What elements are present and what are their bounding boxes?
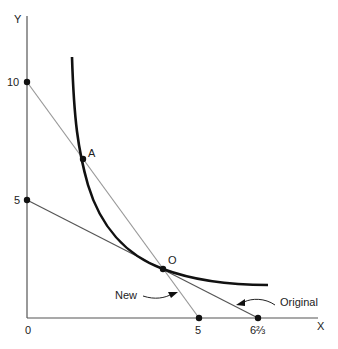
y-tick-10: 10	[7, 76, 19, 88]
new-arrowhead-icon	[168, 292, 178, 298]
indifference-curve	[72, 57, 268, 285]
new-arrow-icon	[143, 294, 172, 298]
original-line-label: Original	[280, 296, 318, 308]
diagram-canvas: Y X 0 10 5 5 6⅔ A O New Original	[0, 0, 338, 349]
new-line-label: New	[115, 289, 137, 301]
x-axis-label: X	[317, 320, 325, 332]
original-arrowhead-icon	[236, 299, 245, 306]
point-o-label: O	[168, 254, 177, 266]
point-x6-2-3	[255, 315, 261, 321]
x-tick-5: 5	[195, 324, 201, 336]
original-arrow-icon	[244, 299, 275, 305]
point-y10	[24, 79, 30, 85]
y-tick-5: 5	[14, 194, 20, 206]
new-budget-line	[27, 82, 199, 318]
point-a-label: A	[88, 147, 96, 159]
y-axis-label: Y	[14, 13, 22, 25]
x-tick-6-2-3: 6⅔	[250, 324, 265, 336]
point-y5	[24, 197, 30, 203]
point-x5	[196, 315, 202, 321]
origin-label: 0	[25, 324, 31, 336]
point-o	[160, 266, 166, 272]
point-a	[80, 156, 86, 162]
